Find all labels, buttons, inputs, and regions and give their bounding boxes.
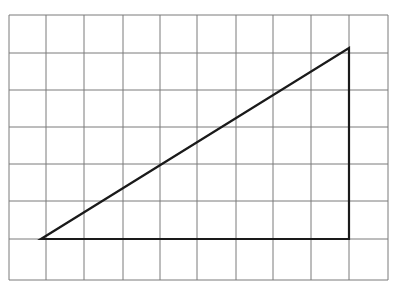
grid-diagram — [0, 0, 409, 297]
right-triangle — [41, 48, 349, 239]
grid-lines — [9, 15, 388, 280]
